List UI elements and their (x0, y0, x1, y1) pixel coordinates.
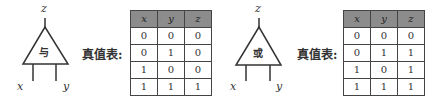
table-row: 1 1 1 (131, 79, 212, 96)
table-cell: 0 (158, 62, 185, 79)
table-cell: 0 (131, 28, 158, 45)
table-row: 1 1 1 (344, 79, 425, 96)
table-cell: 0 (371, 28, 398, 45)
table-row: 1 0 1 (344, 62, 425, 79)
table-row: 1 0 0 (131, 62, 212, 79)
table-cell: 1 (371, 79, 398, 96)
table-cell: 1 (344, 79, 371, 96)
table-cell: 0 (371, 62, 398, 79)
and-gate-input-y-label: y (63, 80, 69, 93)
column-header-x: x (344, 11, 371, 28)
table-cell: 1 (371, 45, 398, 62)
table-row: 0 1 0 (131, 45, 212, 62)
table-header-row: x y z (131, 11, 212, 28)
and-gate-label: 与 (39, 44, 49, 59)
table-cell: 1 (398, 62, 425, 79)
or-gate-output-label: z (255, 2, 261, 15)
table-cell: 1 (131, 79, 158, 96)
table-cell: 1 (131, 62, 158, 79)
column-header-z: z (398, 11, 425, 28)
table-cell: 1 (398, 45, 425, 62)
table-cell: 1 (344, 62, 371, 79)
column-header-y: y (158, 11, 185, 28)
table-cell: 1 (185, 79, 212, 96)
table-cell: 0 (185, 45, 212, 62)
column-header-x: x (131, 11, 158, 28)
table-row: 0 0 0 (131, 28, 212, 45)
table-cell: 0 (158, 28, 185, 45)
and-gate-output-label: z (41, 2, 47, 15)
table-row: 0 0 0 (344, 28, 425, 45)
or-truth-table-label: 真值表: (297, 45, 337, 62)
column-header-z: z (185, 11, 212, 28)
or-gate-input-x-label: x (230, 80, 236, 93)
table-cell: 0 (344, 28, 371, 45)
table-cell: 0 (131, 45, 158, 62)
table-cell: 1 (398, 79, 425, 96)
table-cell: 0 (185, 28, 212, 45)
table-cell: 0 (185, 62, 212, 79)
table-cell: 0 (344, 45, 371, 62)
and-gate-input-x-label: x (17, 80, 23, 93)
table-cell: 1 (158, 79, 185, 96)
table-cell: 0 (398, 28, 425, 45)
table-header-row: x y z (344, 11, 425, 28)
and-truth-table-label: 真值表: (82, 45, 122, 62)
and-truth-table: x y z 0 0 0 0 1 0 1 0 0 1 1 1 (130, 10, 212, 96)
or-truth-table: x y z 0 0 0 0 1 1 1 0 1 1 1 1 (343, 10, 425, 96)
or-gate-label: 或 (253, 45, 263, 60)
table-cell: 1 (158, 45, 185, 62)
or-gate-input-y-label: y (276, 80, 282, 93)
column-header-y: y (371, 11, 398, 28)
table-row: 0 1 1 (344, 45, 425, 62)
